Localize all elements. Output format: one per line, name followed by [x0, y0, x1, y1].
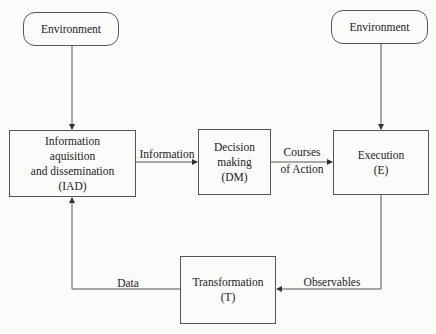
node-label-line: (T) [221, 290, 236, 305]
edge-label-information: Information [139, 147, 195, 161]
node-label-line: and dissemination [31, 164, 114, 179]
edge-label-data: Data [110, 276, 146, 290]
transformation-node: Transformation (T) [180, 256, 276, 324]
node-label: Environment [41, 22, 101, 37]
node-label-line: (IAD) [58, 179, 86, 194]
environment-node-right: Environment [331, 10, 428, 44]
node-label-line: making [217, 155, 252, 170]
iad-node: Information aquisition and dissemination… [9, 130, 136, 197]
dm-node: Decision making (DM) [198, 129, 271, 195]
environment-node-left: Environment [23, 12, 119, 46]
node-label-line: (E) [374, 163, 389, 178]
node-label-line: aquisition [50, 149, 95, 164]
node-label-line: Decision [214, 140, 255, 155]
node-label-line: Transformation [192, 275, 263, 290]
node-label-line: Execution [358, 148, 405, 163]
edge-label-line: of Action [274, 162, 330, 176]
edge-label-observables: Observables [300, 275, 364, 289]
edge-label-courses-of-action: Courses of Action [274, 145, 330, 176]
node-label: Environment [349, 20, 409, 35]
edge-label-line: Courses [274, 145, 330, 159]
execution-node: Execution (E) [333, 130, 429, 195]
node-label-line: (DM) [221, 170, 247, 185]
node-label-line: Information [45, 134, 100, 149]
